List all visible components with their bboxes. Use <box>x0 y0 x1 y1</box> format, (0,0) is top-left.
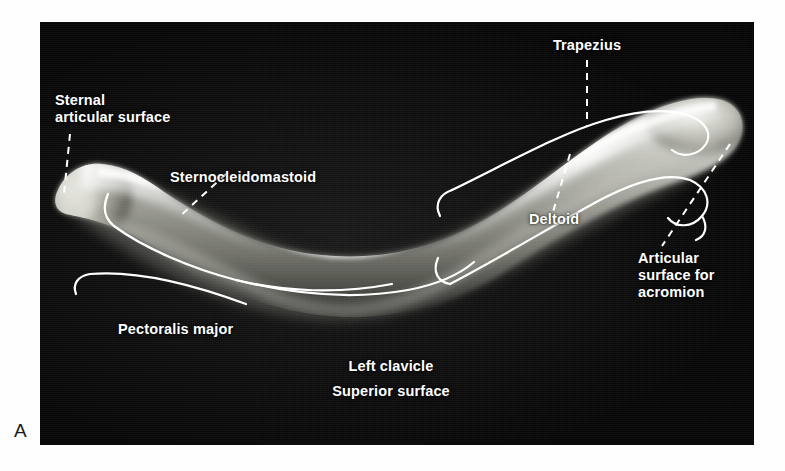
label-acromion-line-2: surface for <box>638 267 715 284</box>
label-sternocleidomastoid: Sternocleidomastoid <box>170 169 316 186</box>
label-sternal-articular-surface: Sternal articular surface <box>55 92 170 126</box>
label-left-clavicle: Left clavicle <box>310 358 472 375</box>
figure-page: A <box>0 0 785 471</box>
overlay-hook-lateral-upper-left <box>438 190 452 216</box>
panel-letter: A <box>14 421 27 440</box>
label-pectoralis-major: Pectoralis major <box>118 321 233 338</box>
specimen-photograph: Sternal articular surface Sternocleidoma… <box>40 22 754 445</box>
label-superior-surface: Superior surface <box>302 383 480 400</box>
clavicle-bone-graphic <box>40 22 754 445</box>
label-sternal-line-1: Sternal <box>55 92 170 109</box>
label-deltoid: Deltoid <box>529 211 579 228</box>
label-articular-surface-for-acromion: Articular surface for acromion <box>638 250 715 301</box>
label-trapezius: Trapezius <box>506 37 668 54</box>
label-sternal-line-2: articular surface <box>55 109 170 126</box>
label-acromion-line-3: acromion <box>638 284 715 301</box>
label-acromion-line-1: Articular <box>638 250 715 267</box>
